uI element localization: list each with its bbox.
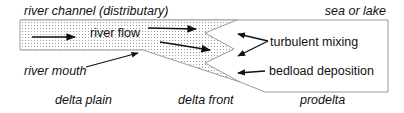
label-prodelta: prodelta: [299, 93, 345, 107]
label-river-flow: river flow: [90, 26, 141, 40]
river-mouth-pointer: [86, 53, 138, 67]
label-river-channel: river channel (distributary): [24, 4, 169, 18]
mixing-arrows: [238, 34, 268, 73]
arrow-right-icon: [148, 28, 196, 29]
label-sea-or-lake: sea or lake: [325, 4, 386, 18]
arrow-left-icon: [238, 41, 268, 56]
label-turbulent-mixing: turbulent mixing: [270, 35, 358, 49]
arrow-left-icon: [238, 34, 268, 41]
label-bedload-deposition: bedload deposition: [269, 64, 374, 78]
label-delta-plain: delta plain: [55, 93, 112, 107]
arrow-left-icon: [238, 71, 265, 73]
delta-diagram: river channel (distributary) sea or lake…: [0, 0, 404, 113]
label-delta-front: delta front: [178, 93, 234, 107]
label-river-mouth: river mouth: [24, 64, 87, 78]
